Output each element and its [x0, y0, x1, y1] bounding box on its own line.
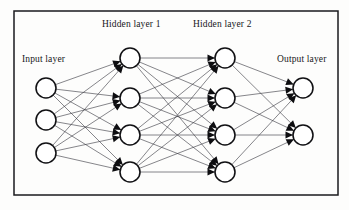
- connection-edge: [56, 89, 120, 97]
- neuron-node: [293, 125, 313, 145]
- hidden-layer-1-label: Hidden layer 1: [102, 19, 161, 29]
- connection-edge: [232, 65, 296, 128]
- connection-arrowheads: [112, 54, 296, 175]
- edge-arrowhead: [112, 92, 120, 99]
- connection-edges: [53, 58, 297, 172]
- connection-edge: [234, 139, 294, 167]
- output-layer-label: Output layer: [277, 54, 327, 64]
- neuron-node: [215, 88, 235, 108]
- input-layer-label: Input layer: [22, 54, 66, 64]
- connection-edge: [235, 89, 293, 96]
- connection-edge: [54, 64, 122, 114]
- neuron-node: [36, 110, 56, 130]
- connection-edge: [55, 61, 120, 84]
- neuron-node: [215, 48, 235, 68]
- connection-edge: [234, 93, 295, 130]
- edge-arrowhead: [286, 131, 294, 138]
- connection-edge: [56, 155, 120, 170]
- figure-canvas: Input layer Hidden layer 1 Hidden layer …: [0, 0, 349, 210]
- neuron-node: [36, 78, 56, 98]
- connection-edge: [56, 122, 120, 133]
- edge-arrowhead: [208, 54, 216, 61]
- edge-arrowhead: [113, 103, 121, 110]
- connection-edge: [56, 101, 121, 118]
- neuron-node: [293, 78, 313, 98]
- neuron-node: [120, 48, 140, 68]
- edge-arrowhead: [112, 135, 120, 142]
- edge-arrowhead: [285, 87, 293, 94]
- connection-edge: [56, 137, 120, 151]
- hidden-layer-2-label: Hidden layer 2: [193, 19, 252, 29]
- neuron-node: [215, 162, 235, 182]
- edge-arrowhead: [208, 131, 216, 138]
- connection-edge: [234, 102, 294, 130]
- neuron-node: [36, 143, 56, 163]
- connection-edge: [54, 103, 121, 147]
- connection-edge: [55, 93, 122, 130]
- edge-arrowhead: [208, 168, 216, 175]
- neuron-node: [120, 162, 140, 182]
- edge-arrowhead: [208, 94, 216, 101]
- neuron-node: [120, 125, 140, 145]
- neuron-node: [120, 88, 140, 108]
- connection-edge: [234, 62, 293, 85]
- neuron-node: [215, 125, 235, 145]
- neural-network-diagram: Input layer Hidden layer 1 Hidden layer …: [0, 0, 349, 210]
